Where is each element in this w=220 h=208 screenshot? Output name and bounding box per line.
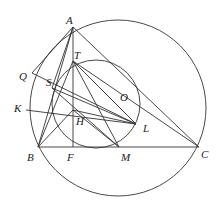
segment-BT xyxy=(38,61,73,147)
segments xyxy=(26,27,199,147)
segment-AS xyxy=(52,27,73,88)
point-label-F: F xyxy=(66,151,74,163)
segment-AC xyxy=(73,27,199,147)
point-label-M: M xyxy=(120,151,131,163)
point-label-A: A xyxy=(65,14,73,26)
point-label-C: C xyxy=(201,148,209,160)
point-label-Q: Q xyxy=(19,70,27,82)
circumcircle xyxy=(30,20,206,196)
point-label-L: L xyxy=(142,122,149,134)
segment-TM xyxy=(73,61,119,147)
point-label-K: K xyxy=(13,102,22,114)
point-label-S: S xyxy=(46,76,52,88)
circles xyxy=(30,20,206,196)
point-label-H: H xyxy=(75,115,85,127)
segment-AQ xyxy=(32,27,73,73)
point-label-B: B xyxy=(27,151,34,163)
geometry-diagram: ABCFMTHSQKLO xyxy=(0,0,220,208)
point-label-T: T xyxy=(74,49,81,61)
segment-TC xyxy=(73,61,199,147)
point-label-O: O xyxy=(120,91,128,103)
